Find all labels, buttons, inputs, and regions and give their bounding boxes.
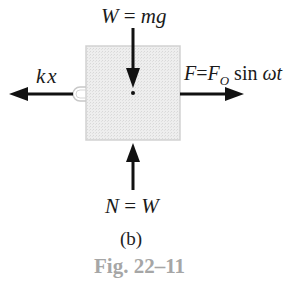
spring-attachment-icon (73, 87, 86, 101)
subcaption: (b) (120, 228, 142, 250)
spring-force-arrow-icon (9, 87, 73, 101)
weight-label: W = mg (101, 4, 167, 29)
spring-force-label: kx (36, 64, 59, 89)
applied-force-label: F=FO sin ωt (184, 62, 282, 89)
figure-caption: Fig. 22–11 (94, 254, 185, 279)
applied-force-arrow-icon (180, 87, 244, 101)
normal-label: N = W (105, 194, 159, 219)
normal-arrow-icon (126, 143, 140, 190)
free-body-diagram (0, 0, 290, 281)
center-of-mass-dot (131, 91, 135, 95)
